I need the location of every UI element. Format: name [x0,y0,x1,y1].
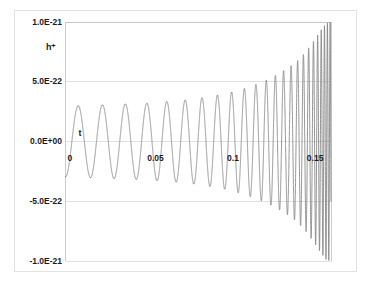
chart-container: 1.0E-21 5.0E-22 0.0E+00 -5.0E-22 -1.0E-2… [0,0,374,283]
x-tick-label: 0.05 [147,153,164,163]
x-tick-label: 0.1 [227,153,239,163]
y-tick-label: -1.0E-21 [16,256,62,266]
y-tick-label: 0.0E+00 [16,136,62,146]
y-axis-title: h⁺ [46,42,57,52]
x-tick-label: 0 [68,153,73,163]
y-tick-label: 5.0E-22 [16,76,62,86]
y-tick-label: -5.0E-22 [16,196,62,206]
y-tick-label: 1.0E-21 [16,17,62,27]
x-tick-label: 0.15 [307,153,324,163]
x-axis-title: t [79,128,82,138]
